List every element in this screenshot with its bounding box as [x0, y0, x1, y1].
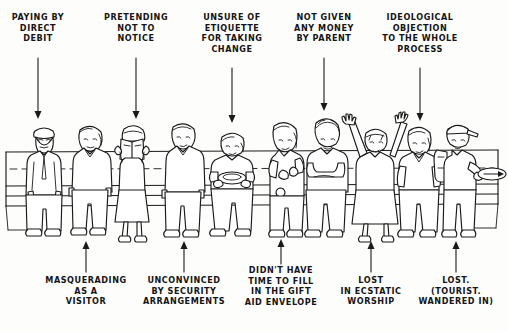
top-arrows	[35, 58, 424, 123]
arrow-down-not-given-any-money	[321, 58, 328, 111]
arrow-up-unconvinced-by-security	[181, 241, 188, 272]
caption-pretending-not-to-notice: PRETENDING NOT TO NOTICE	[84, 12, 188, 44]
arrow-down-unsure-of-etiquette	[229, 68, 236, 123]
figure-man-unconvinced-security	[162, 124, 205, 237]
figure-tourist-with-backpack	[434, 125, 506, 237]
caption-unconvinced-by-security: UNCONVINCED BY SECURITY ARRANGEMENTS	[128, 275, 240, 307]
figure-woman-masquerading-visitor	[69, 126, 112, 235]
figure-teenager-no-money	[305, 119, 348, 237]
arrow-up-no-time-gift-aid-envelope	[278, 239, 285, 264]
arrow-up-lost-tourist-wandered-in	[453, 241, 460, 272]
arrow-up-masquerading-as-a-visitor	[83, 241, 90, 272]
caption-unsure-of-etiquette: UNSURE OF ETIQUETTE FOR TAKING CHANGE	[180, 12, 284, 54]
figure-woman-with-purse	[269, 123, 304, 237]
caption-not-given-any-money: NOT GIVEN ANY MONEY BY PARENT	[272, 12, 376, 44]
arrow-down-paying-by-direct-debit	[35, 58, 42, 119]
figure-seated-woman-gift-aid	[397, 127, 440, 237]
figure-man-with-tie-direct-debit	[26, 128, 62, 236]
figure-woman-hymn-book	[115, 126, 149, 242]
caption-paying-by-direct-debit: PAYING BY DIRECT DEBIT	[0, 12, 90, 44]
caption-masquerading-as-a-visitor: MASQUERADING AS A VISITOR	[30, 275, 142, 307]
arrow-down-pretending-not-to-notice	[133, 58, 140, 119]
figure-man-holding-plate	[210, 133, 255, 236]
arrow-up-lost-in-ecstatic-worship	[368, 241, 375, 272]
caption-lost-tourist-wandered-in: LOST. (TOURIST. WANDERED IN)	[404, 275, 508, 307]
cartoon-canvas: .ln{fill:none;stroke:#1a1a1a;stroke-widt…	[0, 0, 508, 332]
caption-ideological-objection: IDEOLOGICAL OBJECTION TO THE WHOLE PROCE…	[364, 12, 476, 54]
arrow-down-ideological-objection	[417, 68, 424, 121]
caption-no-time-gift-aid-envelope: DIDN'T HAVE TIME TO FILL IN THE GIFT AID…	[229, 265, 333, 307]
